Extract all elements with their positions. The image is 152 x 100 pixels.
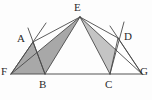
vertex-label-F: F xyxy=(1,66,7,77)
vertex-label-A: A xyxy=(17,33,25,44)
geometry-figure: E A D F B C G xyxy=(0,0,152,100)
vertex-label-G: G xyxy=(140,66,148,77)
geometry-canvas xyxy=(0,0,152,100)
vertex-label-C: C xyxy=(105,79,112,90)
vertex-label-B: B xyxy=(39,79,46,90)
vertex-label-D: D xyxy=(124,31,132,42)
vertex-label-E: E xyxy=(74,2,81,13)
